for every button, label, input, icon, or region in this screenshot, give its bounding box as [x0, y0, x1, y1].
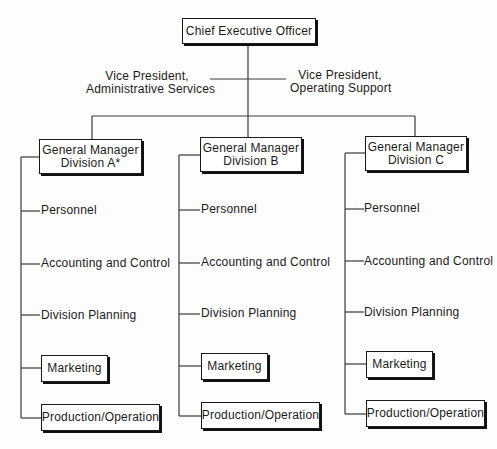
division-b-production: Production/Operation — [201, 402, 320, 429]
division-b-personnel: Personnel — [201, 203, 257, 216]
division-a-production: Production/Operation — [41, 404, 160, 431]
division-b-marketing: Marketing — [201, 353, 268, 380]
division-c-box: General Manager Division C — [365, 136, 467, 171]
division-a-planning: Division Planning — [41, 309, 136, 322]
division-c-planning: Division Planning — [364, 306, 459, 319]
ceo-box: Chief Executive Officer — [182, 18, 316, 44]
division-a-marketing: Marketing — [41, 355, 108, 382]
vp-operating-support: Vice President, Operating Support — [290, 69, 390, 95]
ceo-label: Chief Executive Officer — [186, 25, 312, 38]
division-c-accounting: Accounting and Control — [364, 255, 493, 268]
division-b-accounting: Accounting and Control — [201, 256, 330, 269]
division-b-planning: Division Planning — [201, 307, 296, 320]
division-c-personnel: Personnel — [364, 202, 420, 215]
division-b-box: General Manager Division B — [200, 137, 302, 172]
division-a-personnel: Personnel — [41, 204, 97, 217]
division-c-production: Production/Operation — [366, 400, 485, 427]
vp-administrative-services: Vice President, Administrative Services — [86, 70, 208, 96]
division-c-marketing: Marketing — [366, 351, 433, 378]
division-a-accounting: Accounting and Control — [41, 257, 170, 270]
division-a-box: General Manager Division A* — [39, 139, 142, 174]
org-chart: Chief Executive Officer Vice President, … — [0, 0, 497, 449]
